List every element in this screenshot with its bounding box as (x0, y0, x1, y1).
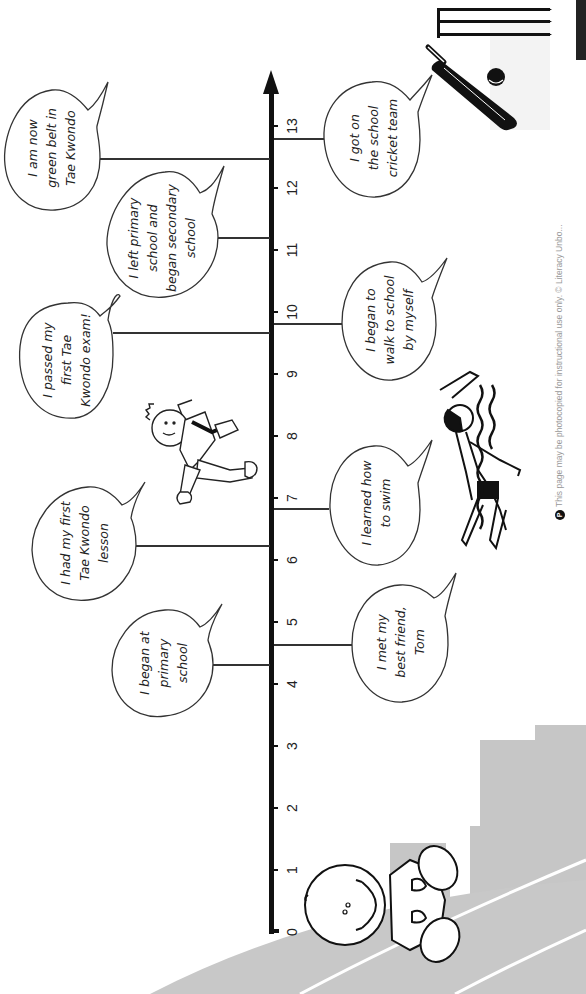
footer-text: This page may be photocopied for instruc… (554, 224, 564, 507)
tick-label-0: 0 (284, 920, 300, 944)
tick-label-12: 12 (284, 176, 300, 200)
publisher-logo (576, 0, 586, 60)
tick-1 (273, 869, 278, 871)
tick-9 (273, 373, 278, 375)
tick-label-9: 9 (284, 362, 300, 386)
tick-8 (273, 435, 278, 437)
tick-10 (273, 311, 278, 313)
tick-12 (273, 187, 278, 189)
event-text-cricket: I got on the school cricket team (335, 85, 411, 191)
connector-walk-to-school (274, 323, 342, 325)
connector-first-lesson (136, 545, 270, 547)
tick-label-1: 1 (284, 858, 300, 882)
connector-cricket (274, 138, 324, 140)
tick-5 (273, 621, 278, 623)
tick-label-6: 6 (284, 548, 300, 572)
tick-11 (273, 249, 278, 251)
event-text-first-lesson: I had my first Tae Kwondo lesson (46, 487, 122, 599)
tick-label-10: 10 (284, 300, 300, 324)
event-text-walk-to-school: I began to walk to school by myself (351, 265, 427, 375)
connector-met-tom (274, 644, 352, 646)
tick-4 (273, 683, 278, 685)
tick-label-4: 4 (284, 672, 300, 696)
tick-2 (273, 807, 278, 809)
tick-13 (273, 125, 278, 127)
tick-7 (273, 497, 278, 499)
connector-secondary-school (217, 237, 270, 239)
connector-primary-school (213, 664, 270, 666)
tick-label-2: 2 (284, 796, 300, 820)
connector-green-belt (100, 158, 270, 160)
photocopy-badge-icon: P (555, 510, 565, 520)
tick-3 (273, 745, 278, 747)
event-text-met-tom: I met my best friend, Tom (362, 586, 438, 698)
event-text-green-belt: I am now green belt in Tae Kwondo (13, 85, 89, 211)
event-text-passed-exam: I passed my first Tae Kwondo exam! (28, 304, 104, 416)
event-text-learned-swim: I learned how to swim (343, 451, 409, 555)
event-text-secondary-school: I left primary school and began secondar… (120, 174, 204, 302)
tick-6 (273, 559, 278, 561)
tick-label-13: 13 (284, 114, 300, 138)
tick-label-5: 5 (284, 610, 300, 634)
tick-label-11: 11 (284, 238, 300, 262)
connector-passed-exam (113, 332, 270, 334)
connector-learned-swim (274, 508, 329, 510)
tick-label-7: 7 (284, 486, 300, 510)
tick-0 (273, 931, 278, 933)
tick-label-8: 8 (284, 424, 300, 448)
event-text-primary-school: I began at primary school (125, 610, 201, 716)
tick-label-3: 3 (284, 734, 300, 758)
copyright-footer: PThis page may be photocopied for instru… (554, 224, 565, 520)
